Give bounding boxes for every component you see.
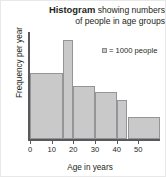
- bar: [63, 40, 74, 140]
- x-tick-label: 50: [134, 145, 142, 154]
- x-tick-mark: [95, 141, 96, 144]
- x-tick-mark: [30, 141, 31, 144]
- x-tick-label: 10: [47, 145, 55, 154]
- bar: [128, 117, 161, 139]
- plot-area: 01020304050: [28, 32, 160, 141]
- chart-title-line-1: Histogram showing numbers: [27, 4, 165, 16]
- y-axis-label: Frequency per year: [15, 13, 24, 113]
- chart-title-rest: showing numbers: [95, 5, 165, 15]
- bar: [95, 92, 117, 139]
- x-tick-mark: [52, 141, 53, 144]
- x-tick-mark: [117, 141, 118, 144]
- x-tick-label: 40: [112, 145, 120, 154]
- bar: [30, 73, 63, 139]
- x-tick-label: 20: [69, 145, 77, 154]
- histogram-figure: Histogram showing numbers of people in a…: [0, 0, 166, 177]
- x-tick-label: 30: [91, 145, 99, 154]
- x-tick-label: 0: [28, 145, 32, 154]
- chart-title: Histogram showing numbers of people in a…: [27, 4, 165, 27]
- x-tick-mark: [138, 141, 139, 144]
- x-tick-mark: [73, 141, 74, 144]
- x-axis-label: Age in years: [25, 163, 155, 172]
- chart-title-strong: Histogram: [49, 4, 95, 15]
- bar: [117, 100, 128, 139]
- bar: [73, 86, 95, 140]
- chart-title-line-2: of people in age groups: [27, 16, 165, 27]
- bar-group: [30, 32, 160, 139]
- x-axis-ticks: 01020304050: [30, 141, 160, 161]
